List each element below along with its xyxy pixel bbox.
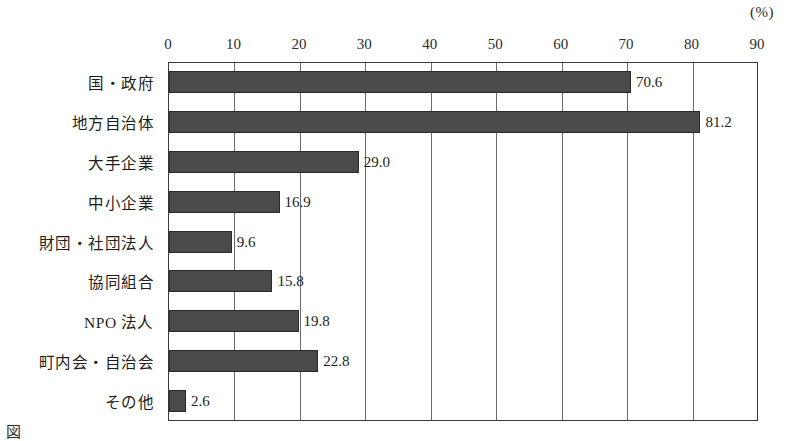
x-tick-30: 30 (357, 36, 372, 53)
x-tick-20: 20 (291, 36, 306, 53)
gridline-40 (431, 63, 432, 420)
category-label-0: 国・政府 (88, 71, 154, 93)
x-tick-0: 0 (164, 36, 172, 53)
plot-area (168, 62, 758, 421)
category-label-3: 中小企業 (88, 191, 154, 213)
x-tick-60: 60 (553, 36, 568, 53)
gridline-60 (562, 63, 563, 420)
x-tick-40: 40 (422, 36, 437, 53)
gridline-30 (365, 63, 366, 420)
x-tick-90: 90 (750, 36, 765, 53)
category-labels: 国・政府地方自治体大手企業中小企業財団・社団法人協同組合NPO 法人町内会・自治… (0, 62, 162, 421)
x-tick-70: 70 (619, 36, 634, 53)
x-tick-10: 10 (226, 36, 241, 53)
axis-unit-label: (%) (750, 4, 774, 21)
category-label-2: 大手企業 (88, 151, 154, 173)
category-label-7: 町内会・自治会 (39, 350, 155, 372)
category-label-1: 地方自治体 (72, 111, 155, 133)
footer-caption-strip: 図 (0, 423, 788, 441)
category-label-4: 財団・社団法人 (39, 231, 155, 253)
gridline-50 (496, 63, 497, 420)
bar-chart: (%) 0102030405060708090 国・政府地方自治体大手企業中小企… (0, 0, 788, 441)
gridline-10 (234, 63, 235, 420)
category-label-8: その他 (105, 390, 155, 412)
gridline-20 (300, 63, 301, 420)
gridline-80 (693, 63, 694, 420)
x-tick-80: 80 (684, 36, 699, 53)
category-label-6: NPO 法人 (84, 310, 154, 332)
footer-caption: 図 (6, 423, 237, 441)
category-label-5: 協同組合 (88, 270, 154, 292)
x-axis-tick-labels: 0102030405060708090 (168, 36, 758, 56)
x-tick-50: 50 (488, 36, 503, 53)
gridline-70 (627, 63, 628, 420)
